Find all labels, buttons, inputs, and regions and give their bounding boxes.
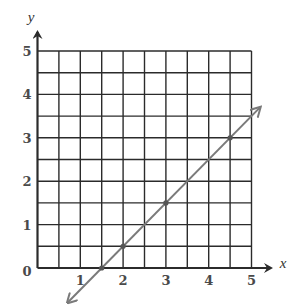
x-tick-label: 1 <box>76 273 85 288</box>
coordinate-plane: 12345123450xy <box>0 0 292 308</box>
data-point <box>99 265 104 270</box>
x-tick-label: 2 <box>119 273 128 288</box>
axes <box>38 32 272 268</box>
y-tick-label: 4 <box>22 87 31 102</box>
x-axis-label: x <box>279 255 287 271</box>
y-tick-label: 1 <box>22 218 31 233</box>
origin-label: 0 <box>22 264 31 279</box>
grid <box>38 51 252 268</box>
x-tick-label: 5 <box>247 273 256 288</box>
y-tick-label: 5 <box>22 44 31 59</box>
data-point <box>163 200 168 205</box>
y-tick-label: 2 <box>22 174 31 189</box>
data-point <box>121 244 126 249</box>
y-axis-label: y <box>26 9 35 25</box>
data-point <box>228 135 233 140</box>
y-tick-label: 3 <box>22 131 31 146</box>
x-tick-label: 3 <box>161 273 170 288</box>
x-tick-label: 4 <box>204 273 213 288</box>
